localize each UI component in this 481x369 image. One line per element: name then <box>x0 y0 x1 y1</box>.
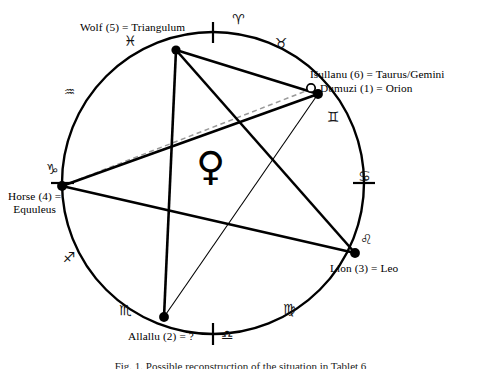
virgo-icon: ♍ <box>283 302 296 316</box>
label-horse-line1: Horse (4) = <box>8 190 61 203</box>
label-lion: Lion (3) = Leo <box>330 262 398 274</box>
venus-symbol: ♀ <box>196 146 225 186</box>
taurus-icon: ♉ <box>275 36 288 50</box>
label-horse-line2: Equuleus <box>8 203 61 216</box>
node-marker-isullanu[interactable] <box>307 84 315 92</box>
pisces-icon: ♓ <box>124 34 137 48</box>
node-marker-wolf[interactable] <box>171 45 180 54</box>
star-diagram-svg <box>0 0 481 369</box>
label-wolf: Wolf (5) = Triangulum <box>80 21 185 33</box>
sagittarius-icon: ♐ <box>63 250 76 264</box>
libra-icon: ♎ <box>221 328 234 342</box>
figure-caption: Fig. 1. Possible reconstruction of the s… <box>0 360 481 369</box>
capricorn-icon: ♑ <box>46 162 59 176</box>
label-horse: Horse (4) = Equuleus <box>8 190 61 216</box>
aries-icon: ♈ <box>232 12 245 26</box>
label-allallu: Allallu (2) = ? <box>128 330 194 342</box>
label-isullanu: Išullanu (6) = Taurus/Gemini <box>310 68 445 80</box>
label-dumuzi: Dumuzi (1) = Orion <box>320 82 413 94</box>
figure-container: ♀ ♈ ♉ ♊ ♋ ♌ ♍ ♎ ♏ ♐ ♑ ♒ ♓ Wolf (5) = Tri… <box>0 0 481 369</box>
leo-icon: ♌ <box>360 232 373 246</box>
scorpio-icon: ♏ <box>119 303 132 317</box>
gemini-icon: ♊ <box>327 110 340 124</box>
cancer-icon: ♋ <box>358 169 371 183</box>
aquarius-icon: ♒ <box>64 86 75 99</box>
node-marker-lion[interactable] <box>350 248 360 258</box>
node-marker-allallu[interactable] <box>159 312 169 322</box>
